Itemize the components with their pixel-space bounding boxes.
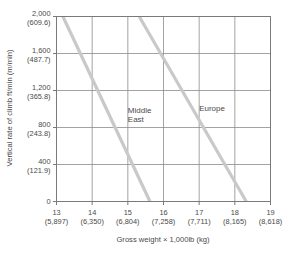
y-tick-secondary: (609.6) [27,18,50,27]
series-line-europe [139,17,246,202]
x-tick-label-group: 16(7,258) [152,208,175,226]
x-axis-tick-labels: 13(5,897)14(6,350)15(6,804)16(7,258)17(7… [45,208,282,226]
y-tick-primary: 0 [46,197,50,206]
y-tick-secondary: (243.8) [27,129,50,138]
climb-performance-chart: 13(5,897)14(6,350)15(6,804)16(7,258)17(7… [0,0,304,258]
x-tick-primary: 19 [266,208,274,217]
chart-canvas: 13(5,897)14(6,350)15(6,804)16(7,258)17(7… [0,0,304,258]
x-tick-primary: 17 [195,208,203,217]
x-tick-label-group: 18(8,165) [223,208,246,226]
y-axis-tick-labels: 2,000(609.6)1,600(487.7)1,200(365.8)800(… [27,9,50,206]
y-tick-secondary: (365.8) [27,92,50,101]
annotation-middle-east-line2: East [128,115,145,124]
annotation-middle-east-line1: Middle [128,106,152,115]
y-tick-label-group: 400(121.9) [27,157,50,175]
x-tick-label-group: 19(8,618) [259,208,282,226]
grid-lines [57,17,271,202]
x-tick-secondary: (6,804) [116,217,139,226]
y-tick-label-group: 0 [46,197,50,206]
x-tick-secondary: (6,350) [80,217,103,226]
x-axis-title: Gross weight × 1,000lb (kg) [116,235,210,244]
x-tick-secondary: (5,897) [45,217,68,226]
series-annotations: MiddleEastEurope [128,104,226,124]
x-tick-primary: 13 [52,208,60,217]
y-tick-label-group: 2,000(609.6) [27,9,50,27]
x-tick-label-group: 14(6,350) [80,208,103,226]
x-tick-primary: 15 [124,208,132,217]
x-tick-secondary: (7,711) [188,217,211,226]
y-tick-label-group: 1,600(487.7) [27,46,50,64]
plot-frame [53,17,271,206]
x-tick-primary: 14 [88,208,96,217]
x-tick-label-group: 15(6,804) [116,208,139,226]
x-tick-secondary: (8,618) [259,217,282,226]
x-tick-primary: 16 [159,208,167,217]
y-tick-secondary: (121.9) [27,166,50,175]
x-tick-label-group: 13(5,897) [45,208,68,226]
y-axis-title: Vertical rate of climb ft/min (m/min) [5,49,14,166]
y-tick-secondary: (487.7) [27,55,50,64]
y-tick-label-group: 1,200(365.8) [27,83,50,101]
x-tick-secondary: (7,258) [152,217,175,226]
x-tick-label-group: 17(7,711) [188,208,211,226]
annotation-middle-east: MiddleEast [128,106,152,125]
x-tick-secondary: (8,165) [223,217,246,226]
x-tick-primary: 18 [231,208,239,217]
annotation-europe: Europe [199,104,225,113]
y-tick-label-group: 800(243.8) [27,120,50,138]
